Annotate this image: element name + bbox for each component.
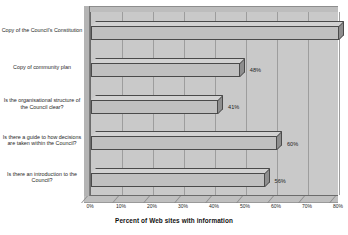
x-tick-label: 60% (271, 203, 281, 209)
x-tick-label: 30% (178, 203, 188, 209)
x-tick-label: 0% (86, 203, 93, 209)
bar-front-face (91, 136, 277, 150)
category-label: Copy of community plan (0, 64, 84, 71)
bar-value-label: 56% (275, 174, 286, 188)
bar-front-face (91, 173, 265, 187)
x-tick-label: 10% (116, 203, 126, 209)
category-axis-labels: Copy of the Council's ConstitutionCopy o… (0, 12, 88, 196)
bar (91, 131, 277, 150)
bar (91, 21, 339, 40)
x-tick-label: 20% (147, 203, 157, 209)
x-tick-label: 40% (209, 203, 219, 209)
x-tick-label: 80% (333, 203, 343, 209)
x-axis-tick-labels: 0%10%20%30%40%50%60%70%80% (90, 203, 338, 213)
category-label: Is there an introduction to the Council? (0, 171, 84, 184)
bar-chart: Copy of the Council's ConstitutionCopy o… (0, 0, 348, 235)
x-tick-label: 70% (302, 203, 312, 209)
x-axis-title: Percent of Web sites with information (0, 217, 348, 224)
bar-side-face (240, 58, 245, 77)
bar-front-face (91, 100, 218, 114)
bar (91, 58, 240, 77)
category-label: Is the organisational structure of the C… (0, 97, 84, 110)
category-label: Is there a guide to how decisions are ta… (0, 134, 84, 147)
bar-side-face (277, 131, 282, 150)
bar-front-face (91, 63, 240, 77)
bar-value-label: 41% (228, 100, 239, 114)
plot-area: 80%48%41%60%56% (90, 12, 338, 196)
category-label: Copy of the Council's Constitution (0, 27, 84, 34)
bar-side-face (339, 21, 344, 40)
bar-value-label: 48% (250, 63, 261, 77)
bar-front-face (91, 26, 339, 40)
bar (91, 95, 218, 114)
x-tick-label: 50% (240, 203, 250, 209)
bar-value-label: 60% (287, 137, 298, 151)
bar-side-face (265, 168, 270, 187)
bar-side-face (218, 95, 223, 114)
bar (91, 168, 265, 187)
